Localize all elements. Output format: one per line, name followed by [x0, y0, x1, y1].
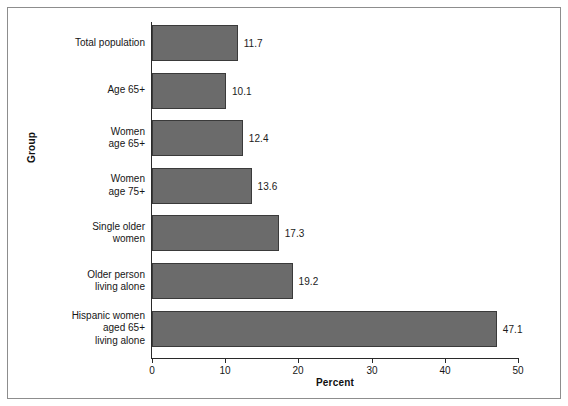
bar-row: 47.1	[152, 311, 557, 347]
x-tick-label: 40	[439, 365, 450, 376]
category-label: Women age 65+	[0, 126, 145, 151]
bar-value-label: 47.1	[503, 323, 523, 334]
bar-chart: 11.710.112.413.617.319.247.1 Total popul…	[0, 0, 568, 406]
category-label: Older person living alone	[0, 269, 145, 294]
bar	[152, 168, 252, 204]
x-tick-mark	[298, 358, 299, 363]
x-tick-mark	[518, 358, 519, 363]
x-tick-label: 50	[512, 365, 523, 376]
bar-value-label: 10.1	[232, 85, 252, 96]
category-label: Women age 75+	[0, 173, 145, 198]
bar-row: 17.3	[152, 215, 339, 251]
x-tick-mark	[152, 358, 153, 363]
bar	[152, 215, 279, 251]
bar-value-label: 13.6	[258, 180, 278, 191]
category-label: Hispanic women aged 65+ living alone	[0, 310, 145, 348]
x-axis-title: Percent	[151, 377, 519, 388]
bar-row: 10.1	[152, 73, 286, 109]
x-tick-label: 10	[219, 365, 230, 376]
bar-value-label: 17.3	[285, 228, 305, 239]
bar-row: 13.6	[152, 168, 312, 204]
bar-row: 11.7	[152, 25, 298, 61]
x-tick-label: 30	[366, 365, 377, 376]
bar	[152, 311, 497, 347]
bar	[152, 25, 238, 61]
x-tick-mark	[225, 358, 226, 363]
bar-value-label: 19.2	[299, 276, 319, 287]
x-tick-label: 0	[149, 365, 155, 376]
bar	[152, 73, 226, 109]
bar-row: 12.4	[152, 120, 303, 156]
bar-row: 19.2	[152, 263, 353, 299]
bar-value-label: 12.4	[249, 133, 269, 144]
bar	[152, 263, 293, 299]
y-axis-title: Group	[26, 132, 37, 163]
category-label: Age 65+	[0, 84, 145, 97]
x-tick-label: 20	[292, 365, 303, 376]
x-tick-mark	[372, 358, 373, 363]
x-tick-mark	[445, 358, 446, 363]
bar-value-label: 11.7	[244, 38, 263, 49]
bar	[152, 120, 243, 156]
category-label: Single older women	[0, 221, 145, 246]
category-label: Total population	[0, 37, 145, 50]
